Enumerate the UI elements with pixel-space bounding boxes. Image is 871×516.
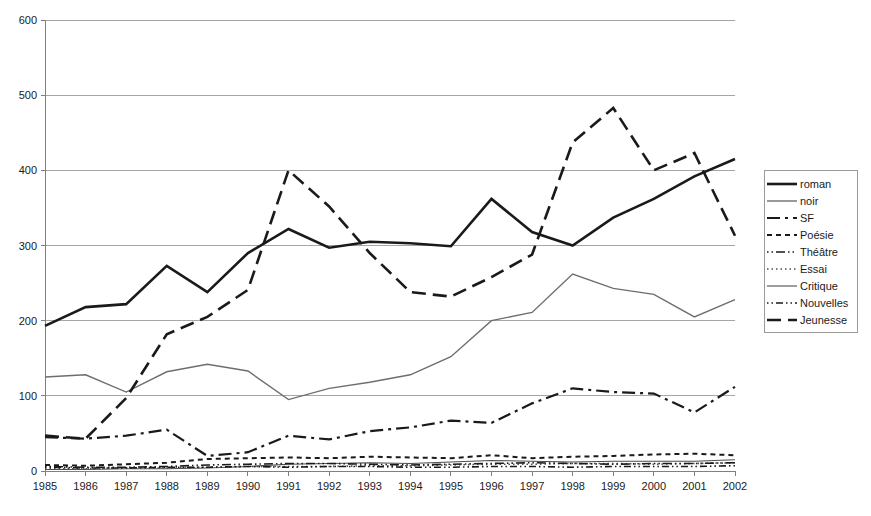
legend-item-th--tre[interactable]: Théâtre [767,243,854,260]
y-axis-label: 300 [19,240,37,252]
x-axis-label: 1999 [601,480,625,492]
legend-item-label: Essai [800,262,827,276]
y-axis-label: 400 [19,164,37,176]
legend-item-label: Poésie [800,228,834,242]
legend-item-label: noir [800,194,818,208]
x-axis-label: 1990 [236,480,260,492]
legend-item-label: roman [800,177,831,191]
chart-legend: romannoirSFPoésieThéâtreEssaiCritiqueNou… [764,170,858,333]
x-axis-label: 2002 [723,480,747,492]
series-line-jeunesse [45,108,735,439]
x-axis-label: 1997 [520,480,544,492]
x-axis-label: 2001 [682,480,706,492]
legend-swatch-icon [767,262,797,276]
legend-item-label: SF [800,211,814,225]
legend-item-jeunesse[interactable]: Jeunesse [767,311,854,328]
series-line-roman [45,159,735,326]
legend-swatch-icon [767,228,797,242]
legend-swatch-icon [767,211,797,225]
legend-item-nouvelles[interactable]: Nouvelles [767,294,854,311]
x-axis-label: 1989 [195,480,219,492]
y-axis-label: 600 [19,14,37,26]
y-axis-label: 0 [31,465,37,477]
x-axis-label: 1995 [439,480,463,492]
legend-swatch-icon [767,313,797,327]
x-axis-label: 1988 [155,480,179,492]
x-axis-label: 1986 [73,480,97,492]
legend-item-label: Jeunesse [800,313,847,327]
x-axis-label: 1992 [317,480,341,492]
legend-item-critique[interactable]: Critique [767,277,854,294]
legend-item-noir[interactable]: noir [767,192,854,209]
x-axis-label: 1985 [33,480,57,492]
x-axis-label: 1987 [114,480,138,492]
legend-swatch-icon [767,177,797,191]
x-axis-label: 1994 [398,480,422,492]
legend-item-po-sie[interactable]: Poésie [767,226,854,243]
x-axis-label: 2000 [642,480,666,492]
legend-item-label: Nouvelles [800,296,848,310]
series-line-sf [45,387,735,456]
legend-swatch-icon [767,245,797,259]
legend-item-sf[interactable]: SF [767,209,854,226]
x-axis-label: 1996 [479,480,503,492]
line-chart-svg: 0100200300400500600198519861987198819891… [0,0,756,516]
y-axis-label: 200 [19,315,37,327]
legend-item-label: Critique [800,279,838,293]
y-axis-label: 100 [19,390,37,402]
x-axis-label: 1991 [276,480,300,492]
chart-page: 0100200300400500600198519861987198819891… [0,0,871,516]
series-line-noir [45,274,735,400]
chart-canvas: 0100200300400500600198519861987198819891… [0,0,756,516]
x-axis-label: 1998 [560,480,584,492]
legend-swatch-icon [767,194,797,208]
y-axis-label: 500 [19,89,37,101]
legend-item-roman[interactable]: roman [767,175,854,192]
legend-swatch-icon [767,296,797,310]
x-axis-label: 1993 [357,480,381,492]
legend-item-label: Théâtre [800,245,838,259]
legend-item-essai[interactable]: Essai [767,260,854,277]
legend-swatch-icon [767,279,797,293]
